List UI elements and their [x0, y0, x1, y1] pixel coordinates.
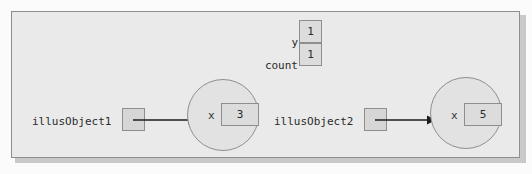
- instance-variable-value-2: 5: [464, 103, 502, 126]
- instance-variable-value-1: 3: [221, 103, 259, 126]
- diagram-stage: y 1 count 1 illusObject1 x 3 illusObject…: [0, 0, 532, 174]
- reference-label-illusobject1: illusObject1: [32, 115, 111, 128]
- reference-label-illusobject2: illusObject2: [274, 115, 353, 128]
- instance-variable-name-2: x: [451, 109, 458, 122]
- static-field-label-y: y: [2, 36, 298, 49]
- static-field-value-y: 1: [299, 20, 322, 43]
- instance-variable-name-1: x: [208, 109, 215, 122]
- static-field-label-count: count: [2, 59, 298, 72]
- diagram-frame: y 1 count 1 illusObject1 x 3 illusObject…: [11, 11, 520, 158]
- arrow-right-icon-2: [375, 112, 437, 128]
- static-field-value-count: 1: [299, 43, 322, 66]
